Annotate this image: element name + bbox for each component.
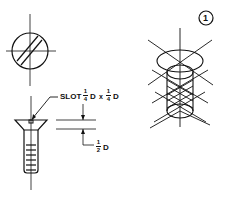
head-height-unit: D: [103, 144, 109, 152]
times-sign: x: [99, 93, 103, 100]
figure-number: 1: [203, 14, 208, 23]
slot-depth-unit: D: [113, 93, 119, 101]
slot-width-unit: D: [90, 93, 96, 101]
slot-depth-fraction: 1 4: [106, 88, 111, 102]
head-height-numerator: 1: [97, 139, 100, 145]
slot-width-fraction: 1 4: [83, 88, 88, 102]
slot-depth-numerator: 1: [107, 88, 110, 94]
isometric-view: [148, 28, 213, 128]
slot-leader: [32, 97, 58, 120]
head-height-dimension: [56, 104, 96, 145]
slot-width-denominator: 4: [84, 96, 87, 102]
slot-width-numerator: 1: [84, 88, 87, 94]
slot-label: SLOT: [60, 93, 81, 101]
slot-depth-denominator: 4: [107, 96, 110, 102]
top-view: [6, 14, 56, 86]
side-view: [15, 96, 47, 190]
head-height-fraction: 1 2: [96, 139, 101, 153]
head-height-denominator: 2: [97, 147, 100, 153]
